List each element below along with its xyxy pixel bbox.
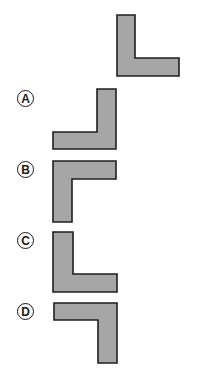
option-d-letter: D <box>21 306 30 318</box>
option-d-shape[interactable] <box>54 303 117 363</box>
option-b-label[interactable]: B <box>17 161 34 178</box>
shapes-svg <box>0 0 198 379</box>
option-b-letter: B <box>21 164 30 176</box>
option-a-label[interactable]: A <box>17 90 34 107</box>
option-d-label[interactable]: D <box>17 303 34 320</box>
reference-shape <box>117 15 179 76</box>
option-c-letter: C <box>21 235 30 247</box>
option-a-letter: A <box>21 93 30 105</box>
option-b-shape[interactable] <box>53 161 116 222</box>
option-c-shape[interactable] <box>53 232 117 292</box>
option-c-label[interactable]: C <box>17 232 34 249</box>
figure-canvas: A B C D <box>0 0 198 379</box>
option-a-shape[interactable] <box>53 89 116 149</box>
